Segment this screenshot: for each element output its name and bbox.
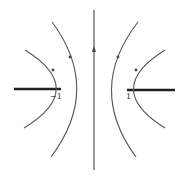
arrow-icon bbox=[69, 56, 72, 59]
arrow-icon bbox=[52, 69, 55, 72]
flow-diagram: −1 1 bbox=[0, 0, 184, 176]
arrow-icon bbox=[135, 69, 138, 72]
arrow-up-icon bbox=[92, 46, 96, 52]
label-minus-one: −1 bbox=[50, 92, 62, 101]
arrow-icon bbox=[117, 56, 120, 59]
label-one: 1 bbox=[126, 92, 131, 101]
